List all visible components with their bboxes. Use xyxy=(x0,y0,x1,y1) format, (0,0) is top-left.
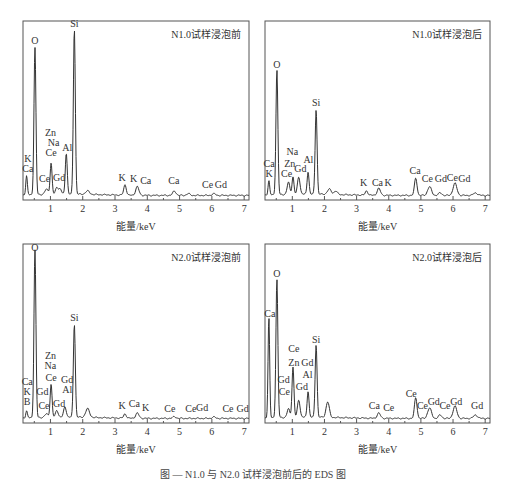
peak-label: Si xyxy=(312,334,321,345)
peak-label: K xyxy=(118,172,126,183)
panel-title: N1.0试样浸泡后 xyxy=(412,28,482,40)
x-tick-label: 5 xyxy=(418,426,423,437)
peak-label: Ca xyxy=(369,400,381,411)
x-tick-label: 4 xyxy=(386,426,391,437)
peak-label: Ce xyxy=(422,173,434,184)
peak-label: Gd xyxy=(471,400,483,411)
peak-label: Gd xyxy=(61,374,73,385)
peak-label: K xyxy=(266,168,274,179)
peak-label: Gd xyxy=(450,396,462,407)
peak-label: Na xyxy=(286,146,298,157)
peak-label: Gd xyxy=(301,357,313,368)
x-tick-label: 7 xyxy=(242,426,247,437)
peak-label: Gd xyxy=(36,386,48,397)
peak-label: Si xyxy=(70,312,79,323)
peak-label: O xyxy=(31,35,38,46)
peak-label: Zn xyxy=(288,357,299,368)
x-tick-label: 1 xyxy=(290,426,295,437)
plot-frame xyxy=(23,244,249,423)
peak-label: Ca xyxy=(140,175,152,186)
peak-label: Zn xyxy=(45,350,56,361)
peak-label: Ca xyxy=(372,177,384,188)
peak-label: Zn xyxy=(45,127,56,138)
peak-label: Gd xyxy=(278,374,290,385)
peak-label: K xyxy=(24,386,32,397)
x-tick-label: 4 xyxy=(145,203,150,214)
peak-label: Si xyxy=(70,18,79,29)
x-tick-label: 3 xyxy=(354,203,359,214)
x-tick-label: 5 xyxy=(418,203,423,214)
peak-label: Ce xyxy=(46,372,58,383)
peak-label: Ce xyxy=(38,400,50,411)
x-axis-label: 能量/keV xyxy=(318,441,438,456)
peak-label: Ce xyxy=(406,388,418,399)
x-axis-label: 能量/keV xyxy=(76,441,196,456)
x-tick-label: 6 xyxy=(451,426,456,437)
peak-label: Ca xyxy=(168,175,180,186)
peak-label: K xyxy=(142,402,150,413)
x-tick-label: 3 xyxy=(113,203,118,214)
x-tick-label: 4 xyxy=(145,426,150,437)
peak-label: Gd xyxy=(215,179,227,190)
panel-n1-before: 1234567N1.0试样浸泡前SiOZnNaCeAlKCaCeGdKKCaCa… xyxy=(0,0,253,232)
peak-label: Ca xyxy=(22,376,34,387)
peak-label: K xyxy=(384,177,392,188)
peak-label: Gd xyxy=(53,172,65,183)
peak-label: Ca xyxy=(264,308,276,319)
x-tick-label: 2 xyxy=(322,203,327,214)
peak-label: Ce xyxy=(281,168,293,179)
peak-label: Si xyxy=(312,97,321,108)
x-tick-label: 6 xyxy=(209,203,214,214)
peak-label: Ce xyxy=(222,403,234,414)
peak-label: Ca xyxy=(22,163,34,174)
peak-label: Gd xyxy=(296,381,308,392)
peak-label: Ce xyxy=(279,386,291,397)
panel-n2-after: 1234567N2.0试样浸泡后OCaSiCeZnGdAlGdCeGdCaCeC… xyxy=(253,232,506,464)
x-tick-label: 3 xyxy=(354,426,359,437)
x-tick-label: 2 xyxy=(80,426,85,437)
panel-n2-before: 1234567N2.0试样浸泡前OSiZnNaCeGdAlCaKBGdCeGdK… xyxy=(0,232,253,464)
peak-label: Ca xyxy=(129,398,141,409)
peak-label: K xyxy=(130,173,138,184)
peak-label: Gd xyxy=(53,398,65,409)
spectrum-chart: 1234567N1.0试样浸泡后OSiNaAlCaZnGdKCeKCaKCaCe… xyxy=(253,0,506,232)
peak-label: Al xyxy=(62,142,72,153)
peak-label: Al xyxy=(62,384,72,395)
panel-title: N2.0试样浸泡后 xyxy=(412,251,482,263)
peak-label: Gd xyxy=(196,402,208,413)
peak-label: Ca xyxy=(264,158,276,169)
peak-label: Na xyxy=(48,137,60,148)
x-tick-label: 4 xyxy=(386,203,391,214)
peak-label: Ce xyxy=(288,343,300,354)
peak-label: Gd xyxy=(428,396,440,407)
peak-label: Gd xyxy=(294,163,306,174)
x-tick-label: 3 xyxy=(113,426,118,437)
x-tick-label: 1 xyxy=(48,426,53,437)
spectrum-chart: 1234567N2.0试样浸泡前OSiZnNaCeGdAlCaKBGdCeGdK… xyxy=(0,232,253,464)
peak-label: Ce xyxy=(46,147,58,158)
peak-label: K xyxy=(118,400,126,411)
panel-title: N1.0试样浸泡前 xyxy=(171,28,241,40)
x-tick-label: 7 xyxy=(483,203,488,214)
x-tick-label: 1 xyxy=(48,203,53,214)
peak-label: B xyxy=(24,396,31,407)
peak-label: Ce xyxy=(39,173,51,184)
peak-label: O xyxy=(31,242,38,253)
x-tick-label: 5 xyxy=(177,426,182,437)
peak-label: Ca xyxy=(410,165,422,176)
peak-label: Al xyxy=(302,369,312,380)
peak-label: O xyxy=(273,268,280,279)
spectrum-line xyxy=(23,250,249,419)
x-tick-label: 6 xyxy=(451,203,456,214)
peak-label: Gd xyxy=(236,403,248,414)
peak-label: Ce xyxy=(383,402,395,413)
spectrum-chart: 1234567N1.0试样浸泡前SiOZnNaCeAlKCaCeGdKKCaCa… xyxy=(0,0,253,232)
x-tick-label: 7 xyxy=(242,203,247,214)
peak-label: Ce xyxy=(164,403,176,414)
x-tick-label: 6 xyxy=(209,426,214,437)
x-tick-label: 5 xyxy=(177,203,182,214)
x-tick-label: 1 xyxy=(290,203,295,214)
peak-label: Ce xyxy=(447,172,459,183)
peak-label: K xyxy=(24,153,32,164)
peak-label: Gd xyxy=(458,173,470,184)
